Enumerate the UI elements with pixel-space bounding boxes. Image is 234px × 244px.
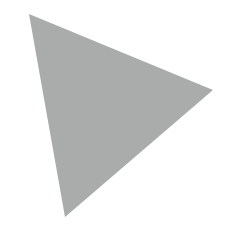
triangle-canvas bbox=[0, 0, 234, 244]
shape-canvas-svg bbox=[0, 0, 234, 244]
